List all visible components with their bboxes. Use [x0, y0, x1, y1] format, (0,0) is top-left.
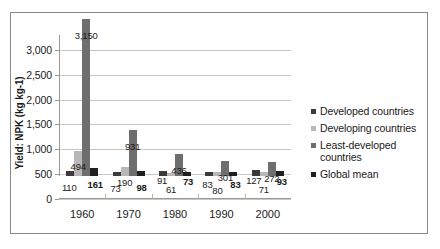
- bar-value-label: 80: [212, 185, 222, 196]
- legend-item[interactable]: Developing countries: [311, 122, 423, 134]
- x-tick-label: 1970: [116, 208, 140, 220]
- bar-value-label: 93: [277, 176, 287, 187]
- legend-item-label: Developed countries: [320, 105, 414, 117]
- y-axis-title: Yield: NPK (kg kg-1): [14, 76, 25, 169]
- bar-value-label: 98: [137, 182, 147, 193]
- bar-value-label: 3,150: [75, 30, 98, 41]
- x-tick-label: 2000: [256, 208, 280, 220]
- legend-item-label: Global mean: [320, 168, 378, 180]
- bar-value-label: 71: [259, 184, 269, 195]
- category-separator: [152, 194, 153, 199]
- y-tick-label: 1,500: [26, 118, 52, 130]
- bar-group-bars: [198, 12, 244, 176]
- chart-legend: Developed countriesDeveloping countriesL…: [311, 105, 423, 185]
- plot-area: 1104943,15016173190931989161436738380301…: [59, 35, 291, 199]
- bar-group-bars: [152, 12, 198, 176]
- bar-value-label: 61: [166, 184, 176, 195]
- bar-value-label: 73: [183, 176, 193, 187]
- bar-value-label: 83: [202, 179, 212, 190]
- bar-value-label: 190: [117, 177, 132, 188]
- legend-swatch-icon: [311, 172, 316, 177]
- category-separator: [245, 194, 246, 199]
- y-tick-mark: [55, 199, 59, 200]
- legend-item[interactable]: Least-developed countries: [311, 139, 423, 163]
- x-tick-label: 1990: [209, 208, 233, 220]
- bar[interactable]: [113, 172, 121, 176]
- bar[interactable]: [121, 167, 129, 176]
- y-tick-label: 3,000: [26, 44, 52, 56]
- legend-item-label: Least-developed countries: [320, 139, 423, 163]
- gridline: [59, 199, 291, 200]
- bar[interactable]: [205, 172, 213, 176]
- bar-value-label: 436: [171, 165, 186, 176]
- bar-value-label: 931: [125, 141, 140, 152]
- legend-item[interactable]: Developed countries: [311, 105, 423, 117]
- y-tick-label: 2,500: [26, 69, 52, 81]
- bar-value-label: 83: [230, 179, 240, 190]
- bar-value-label: 494: [71, 161, 86, 172]
- bar-value-label: 161: [88, 179, 103, 190]
- bar[interactable]: [137, 171, 145, 176]
- bar-value-label: 110: [62, 182, 77, 193]
- y-tick-label: 2,000: [26, 94, 52, 106]
- y-tick-label: 1,000: [26, 143, 52, 155]
- x-tick-label: 1960: [70, 208, 94, 220]
- bar-group: [245, 12, 291, 176]
- y-tick-label: 0: [46, 193, 52, 205]
- legend-item-label: Developing countries: [320, 122, 416, 134]
- legend-swatch-icon: [311, 126, 316, 131]
- bar[interactable]: [129, 130, 137, 176]
- bar[interactable]: [82, 19, 90, 176]
- category-separator: [198, 194, 199, 199]
- legend-item[interactable]: Global mean: [311, 168, 423, 180]
- legend-swatch-icon: [311, 143, 316, 148]
- legend-swatch-icon: [311, 109, 316, 114]
- category-separator: [105, 194, 106, 199]
- bar-group: [198, 12, 244, 176]
- bar-group-bars: [245, 12, 291, 176]
- bar[interactable]: [90, 168, 98, 176]
- plot-region: 1104943,15016173190931989161436738380301…: [59, 35, 291, 222]
- x-tick-label: 1980: [163, 208, 187, 220]
- x-axis-line: [59, 198, 291, 199]
- y-axis-line: [59, 35, 60, 176]
- y-tick-label: 500: [35, 168, 52, 180]
- chart-frame: Yield: NPK (kg kg-1) 1104943,15016173190…: [10, 12, 428, 234]
- bar-group: [152, 12, 198, 176]
